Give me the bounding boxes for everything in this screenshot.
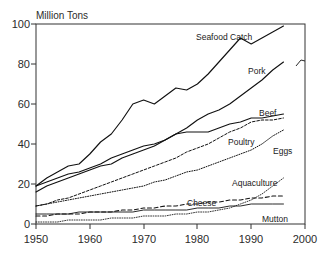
series-path-poultry	[36, 118, 283, 206]
x-tick-label-1950: 1950	[24, 233, 48, 245]
y-tick-label-60: 60	[18, 98, 30, 110]
series-label-mutton: Mutton	[262, 214, 288, 224]
x-tick-label-2000: 2000	[293, 233, 317, 245]
x-axis-ticks	[36, 224, 305, 229]
series-label-eggs: Eggs	[273, 146, 292, 156]
series-label-poultry: Poultry	[228, 137, 255, 147]
series-label-cheese: Cheese	[187, 198, 217, 208]
x-tick-label-1980: 1980	[185, 233, 209, 245]
series-label-pork: Pork	[248, 66, 266, 76]
line-chart: Million Tons 100 80 60 40 20 0	[0, 0, 324, 262]
series-path-seafood-catch	[36, 26, 283, 186]
y-axis-tick-labels: 100 80 60 40 20 0	[12, 18, 30, 230]
series-annotations: Seafood Catch Pork Beef Poultry Eggs Aqu…	[187, 32, 292, 224]
y-axis-title: Million Tons	[36, 10, 88, 21]
y-tick-label-40: 40	[18, 138, 30, 150]
series-label-beef: Beef	[259, 108, 277, 118]
annotation-leaders	[296, 60, 305, 66]
x-axis-tick-labels: 1950 1960 1970 1980 1990 2000	[24, 233, 317, 245]
y-tick-label-20: 20	[18, 178, 30, 190]
x-tick-label-1970: 1970	[132, 233, 156, 245]
y-tick-label-80: 80	[18, 58, 30, 70]
x-tick-label-1990: 1990	[239, 233, 263, 245]
x-tick-label-1960: 1960	[78, 233, 102, 245]
y-tick-label-100: 100	[12, 18, 30, 30]
series-path-mutton	[36, 204, 283, 214]
y-tick-label-0: 0	[24, 218, 30, 230]
series-label-aquaculture: Aquaculture	[232, 178, 278, 188]
series-path-pork	[36, 62, 283, 192]
series-layer	[36, 26, 283, 222]
y-axis-ticks	[31, 24, 36, 224]
plot-area-frame	[36, 24, 305, 224]
leader-pork	[296, 60, 305, 66]
series-label-seafood-catch: Seafood Catch	[196, 32, 253, 42]
chart-container: Million Tons 100 80 60 40 20 0	[0, 0, 324, 262]
